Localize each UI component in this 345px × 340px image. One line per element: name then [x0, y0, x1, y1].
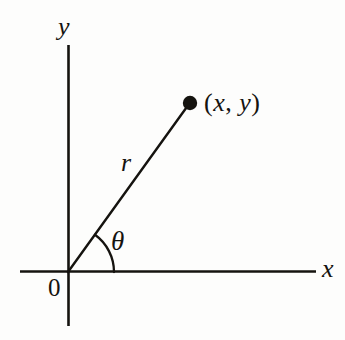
radius-ray-line [68, 104, 189, 272]
theta-angle-label: θ [111, 228, 124, 255]
y-axis-label: y [58, 14, 70, 40]
point-label-close-paren: ) [251, 88, 260, 117]
point-coordinate-label: (x, y) [204, 90, 260, 116]
point-label-y: y [239, 88, 251, 117]
point-label-comma: , [225, 88, 232, 117]
point-label-open-paren: ( [204, 88, 213, 117]
origin-label: 0 [48, 275, 61, 300]
polar-coordinates-figure: y x 0 r θ (x, y) [0, 0, 345, 340]
x-axis-label: x [322, 256, 334, 282]
point-marker-dot [183, 96, 197, 110]
radius-label: r [121, 150, 131, 176]
point-label-x: x [213, 88, 225, 117]
